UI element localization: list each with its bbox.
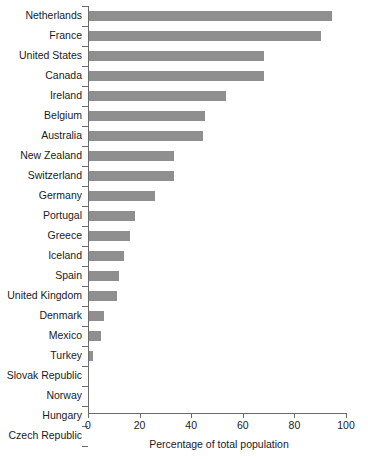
y-axis-tick bbox=[82, 46, 88, 47]
y-axis-tick bbox=[82, 286, 88, 287]
y-axis-tick bbox=[82, 26, 88, 27]
x-axis-tick-label: 20 bbox=[120, 419, 160, 432]
bar bbox=[89, 91, 226, 101]
x-axis-title-text: Percentage of total population bbox=[79, 437, 289, 451]
bar-row: New Zealand bbox=[0, 146, 368, 166]
y-axis-tick bbox=[82, 106, 88, 107]
category-label: Spain bbox=[0, 268, 82, 283]
bar bbox=[89, 71, 264, 81]
x-axis-tick-label: 0 bbox=[68, 419, 108, 432]
bar bbox=[89, 291, 117, 301]
bar bbox=[89, 251, 124, 261]
category-label: Australia bbox=[0, 128, 82, 143]
category-label: Norway bbox=[0, 388, 82, 403]
category-label: Portugal bbox=[0, 208, 82, 223]
category-label: New Zealand bbox=[0, 148, 82, 163]
y-axis-tick bbox=[82, 6, 88, 7]
bar bbox=[89, 31, 321, 41]
y-axis-tick bbox=[82, 266, 88, 267]
category-label: France bbox=[0, 28, 82, 43]
plot-area: NetherlandsFranceUnited StatesCanadaIrel… bbox=[0, 0, 368, 420]
bar bbox=[89, 231, 130, 241]
bar-row: Mexico bbox=[0, 326, 368, 346]
bar bbox=[89, 51, 264, 61]
y-axis-tick bbox=[82, 306, 88, 307]
category-label: Denmark bbox=[0, 308, 82, 323]
bar bbox=[89, 351, 93, 361]
bar-row: Turkey bbox=[0, 346, 368, 366]
bar-row: Australia bbox=[0, 126, 368, 146]
bar bbox=[89, 271, 119, 281]
x-axis-tick bbox=[88, 413, 89, 418]
category-label: Greece bbox=[0, 228, 82, 243]
bar bbox=[89, 311, 104, 321]
category-label: United States bbox=[0, 48, 82, 63]
x-axis-tick bbox=[294, 413, 295, 418]
bar-row: Norway bbox=[0, 386, 368, 406]
category-label: Belgium bbox=[0, 108, 82, 123]
bar-chart: NetherlandsFranceUnited StatesCanadaIrel… bbox=[0, 0, 368, 459]
y-axis-tick bbox=[82, 246, 88, 247]
y-axis-tick bbox=[82, 206, 88, 207]
y-axis-tick bbox=[82, 146, 88, 147]
x-axis-tick-label: 100 bbox=[326, 419, 366, 432]
bar-row: Switzerland bbox=[0, 166, 368, 186]
bar-row: Ireland bbox=[0, 86, 368, 106]
category-label: Turkey bbox=[0, 348, 82, 363]
bar-row: United States bbox=[0, 46, 368, 66]
y-axis-tick bbox=[82, 86, 88, 87]
bar bbox=[89, 331, 101, 341]
y-axis-tick bbox=[82, 326, 88, 327]
y-axis-tick bbox=[82, 366, 88, 367]
category-label: Ireland bbox=[0, 88, 82, 103]
category-label: Slovak Republic bbox=[0, 368, 82, 383]
category-label: Iceland bbox=[0, 248, 82, 263]
x-axis-title: Percentage of total population bbox=[0, 437, 368, 451]
bar-row: Belgium bbox=[0, 106, 368, 126]
category-label: Switzerland bbox=[0, 168, 82, 183]
bar-row: Netherlands bbox=[0, 6, 368, 26]
category-label: Mexico bbox=[0, 328, 82, 343]
x-axis-ticks: 020406080100 bbox=[0, 413, 368, 435]
bar-row: Greece bbox=[0, 226, 368, 246]
x-axis-tick bbox=[243, 413, 244, 418]
category-label: United Kingdom bbox=[0, 288, 82, 303]
y-axis-tick bbox=[82, 186, 88, 187]
y-axis-tick bbox=[82, 406, 88, 407]
x-axis-tick-label: 40 bbox=[171, 419, 211, 432]
y-axis-tick bbox=[82, 226, 88, 227]
x-axis-tick bbox=[191, 413, 192, 418]
bar-row: Germany bbox=[0, 186, 368, 206]
bar-row: Spain bbox=[0, 266, 368, 286]
bar-row: United Kingdom bbox=[0, 286, 368, 306]
bar-row: Canada bbox=[0, 66, 368, 86]
y-axis-tick bbox=[82, 346, 88, 347]
y-axis-tick bbox=[82, 166, 88, 167]
x-axis-tick-label: 80 bbox=[274, 419, 314, 432]
category-label: Netherlands bbox=[0, 8, 82, 23]
bar-row: France bbox=[0, 26, 368, 46]
bar bbox=[89, 11, 332, 21]
bar-rows: NetherlandsFranceUnited StatesCanadaIrel… bbox=[0, 6, 368, 446]
category-label: Canada bbox=[0, 68, 82, 83]
y-axis-tick bbox=[82, 66, 88, 67]
y-axis-tick bbox=[82, 126, 88, 127]
bar bbox=[89, 171, 174, 181]
x-axis-tick bbox=[140, 413, 141, 418]
bar bbox=[89, 191, 155, 201]
bar-row: Denmark bbox=[0, 306, 368, 326]
bar bbox=[89, 211, 135, 221]
bar bbox=[89, 151, 174, 161]
bar-row: Portugal bbox=[0, 206, 368, 226]
bar bbox=[89, 111, 205, 121]
x-axis-tick-label: 60 bbox=[223, 419, 263, 432]
bar bbox=[89, 131, 203, 141]
bar-row: Iceland bbox=[0, 246, 368, 266]
category-label: Germany bbox=[0, 188, 82, 203]
bar-row: Slovak Republic bbox=[0, 366, 368, 386]
y-axis-tick bbox=[82, 386, 88, 387]
x-axis-tick bbox=[346, 413, 347, 418]
